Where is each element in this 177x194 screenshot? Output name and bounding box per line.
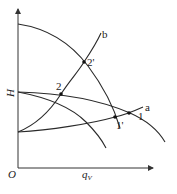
pump-system-diagram: b a 2' 2 1' 1 H O qV [0, 0, 177, 194]
point-1-label: 1 [138, 110, 144, 122]
point-1-marker [127, 111, 131, 115]
point-2-marker [59, 92, 63, 96]
point-2-label: 2 [56, 80, 62, 92]
origin-label: O [8, 168, 16, 180]
point-1-prime-label: 1' [116, 119, 124, 131]
point-2-prime-label: 2' [87, 56, 95, 68]
y-axis-label: H [4, 88, 16, 98]
point-2-prime-marker [82, 60, 86, 64]
x-axis-label: qV [82, 168, 93, 182]
x-axis-label-subscript: V [88, 174, 93, 182]
curve-b-label: b [102, 28, 108, 40]
curve-a-label: a [145, 101, 150, 113]
